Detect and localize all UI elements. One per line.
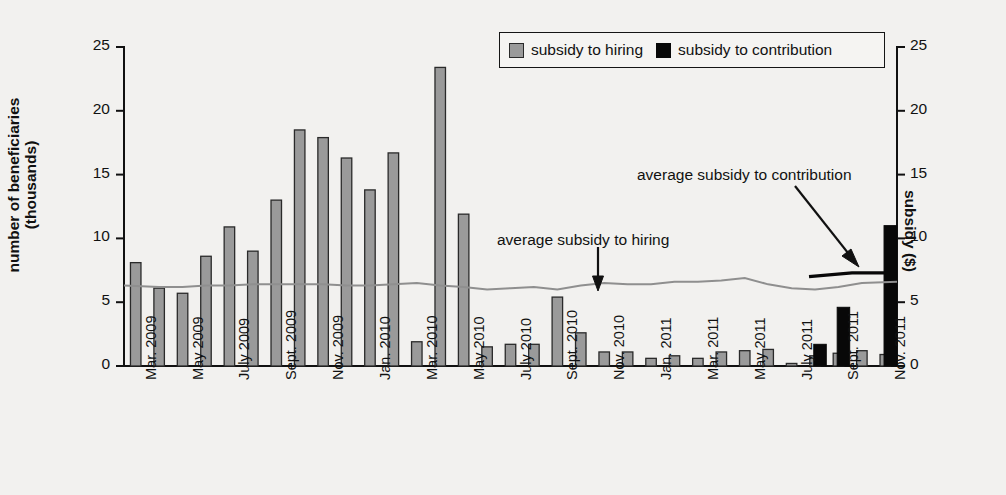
bar-subsidy-to-hiring: [552, 297, 563, 366]
x-tick-label: Nov. 2010: [611, 315, 627, 380]
x-tick-label: Sept. 2010: [564, 310, 580, 380]
bar-subsidy-to-hiring: [177, 293, 188, 366]
bar-subsidy-to-hiring: [365, 190, 376, 366]
bar-subsidy-to-hiring: [833, 353, 844, 366]
bar-subsidy-to-hiring: [318, 138, 329, 366]
x-tick-label: Nov. 2011: [892, 316, 908, 380]
x-tick-label: May 2010: [471, 316, 487, 380]
legend-label-subsidy-to-contribution: subsidy to contribution: [678, 41, 832, 59]
arrowhead-average-subsidy-to-contribution: [842, 249, 859, 267]
bar-subsidy-to-hiring: [458, 214, 469, 366]
arrowhead-average-subsidy-to-hiring: [593, 276, 604, 291]
legend-label-subsidy-to-hiring: subsidy to hiring: [531, 41, 643, 59]
y-tick-label-right: 5: [910, 291, 919, 309]
chart-figure: number of beneficiaries (thousands) subs…: [0, 0, 1006, 495]
y-tick-label-right: 15: [910, 164, 927, 182]
y-axis-left-title: number of beneficiaries (thousands): [5, 15, 39, 355]
y-tick-label-left: 25: [62, 36, 110, 54]
legend-swatch-subsidy-to-hiring: [509, 43, 524, 58]
x-tick-label: May 2009: [190, 316, 206, 380]
x-tick-label: Mar. 2011: [705, 317, 721, 380]
bar-subsidy-to-hiring: [412, 342, 423, 366]
bar-subsidy-to-hiring: [786, 363, 797, 366]
legend-swatch-subsidy-to-contribution: [656, 43, 671, 58]
bar-subsidy-to-hiring: [693, 358, 704, 366]
x-tick-label: Jan. 2010: [377, 316, 393, 380]
chart-legend: subsidy to hiring subsidy to contributio…: [499, 32, 885, 68]
bar-subsidy-to-contribution: [814, 344, 827, 366]
x-tick-label: Sept. 2011: [845, 311, 861, 380]
bar-subsidy-to-hiring: [271, 200, 282, 366]
line-average-subsidy-to-contribution: [809, 273, 895, 277]
x-tick-label: Jan. 2011: [658, 317, 674, 380]
arrow-average-subsidy-to-contribution: [795, 186, 852, 258]
x-tick-label: July 2011: [799, 319, 815, 380]
bar-subsidy-to-hiring: [130, 263, 141, 366]
bar-subsidy-to-hiring: [505, 344, 516, 366]
x-tick-label: Sept. 2009: [283, 310, 299, 380]
y-tick-label-right: 10: [910, 227, 927, 245]
x-tick-label: May 2011: [752, 317, 768, 380]
bar-subsidy-to-hiring: [224, 227, 235, 366]
bar-subsidy-to-hiring: [599, 352, 610, 366]
y-tick-label-left: 0: [62, 355, 110, 373]
y-tick-label-left: 10: [62, 227, 110, 245]
y-tick-label-left: 15: [62, 164, 110, 182]
x-tick-label: July 2009: [236, 318, 252, 380]
x-tick-label: July 2010: [518, 318, 534, 380]
bar-subsidy-to-hiring: [739, 351, 750, 366]
y-tick-label-right: 25: [910, 36, 927, 54]
y-tick-label-right: 0: [910, 355, 919, 373]
annotation-average-subsidy-to-hiring: average subsidy to hiring: [497, 231, 669, 249]
y-tick-label-left: 5: [62, 291, 110, 309]
bar-subsidy-to-hiring: [880, 355, 891, 366]
y-tick-label-left: 20: [62, 100, 110, 118]
x-tick-label: Mar. 2009: [143, 316, 159, 381]
x-tick-label: Mar. 2010: [424, 316, 440, 381]
bar-subsidy-to-hiring: [646, 358, 657, 366]
y-tick-label-right: 20: [910, 100, 927, 118]
line-average-subsidy-to-hiring: [124, 278, 897, 289]
annotation-average-subsidy-to-contribution: average subsidy to contribution: [637, 166, 852, 184]
x-tick-label: Nov. 2009: [330, 315, 346, 380]
